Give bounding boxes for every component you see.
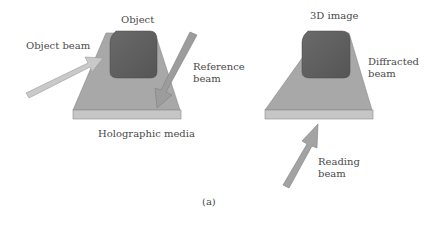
hologram-diagram [0,0,433,226]
figure-caption: (a) [202,196,216,208]
3d-image-block [302,31,350,78]
reference-beam-label-line2: beam [193,73,221,85]
object-title: Object [121,14,154,26]
diffracted-beam-label-line1: Diffracted [368,56,419,68]
reading-beam-arrow [283,124,318,188]
reading-beam-label-line2: beam [318,168,346,180]
3d-image-title: 3D image [310,10,359,22]
reference-beam-label-line1: Reference [193,61,245,73]
reading-beam-label-line1: Reading [318,156,360,168]
object-block [110,31,157,78]
holographic-media-label: Holographic media [98,128,195,140]
diffracted-beam-label-line2: beam [368,68,396,80]
object-beam-label: Object beam [26,40,90,52]
